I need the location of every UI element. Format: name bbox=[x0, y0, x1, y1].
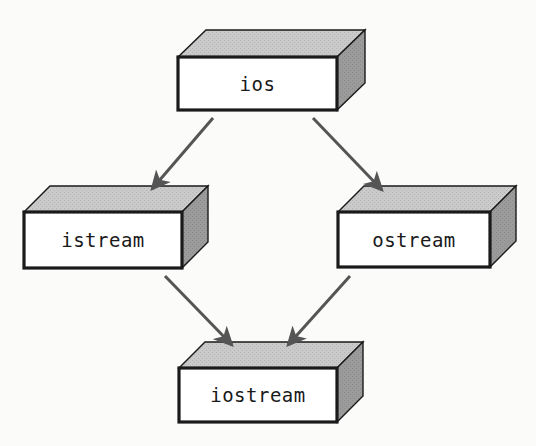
box-front-face-iostream[interactable] bbox=[179, 368, 337, 422]
box-top-face-ostream bbox=[338, 186, 516, 212]
edge-arrow-ios-to-ostream bbox=[313, 118, 382, 190]
edge-arrow-ios-to-istream bbox=[152, 118, 213, 189]
node-box-ios[interactable] bbox=[178, 30, 365, 110]
box-top-face-istream bbox=[24, 186, 208, 212]
box-front-face-istream[interactable] bbox=[24, 212, 182, 268]
node-box-ostream[interactable] bbox=[338, 186, 516, 267]
box-front-face-ios[interactable] bbox=[178, 57, 337, 110]
node-box-istream[interactable] bbox=[24, 186, 208, 268]
diagram-svg bbox=[0, 0, 536, 446]
edge-arrow-ostream-to-iostream bbox=[288, 276, 350, 345]
edge-arrow-istream-to-iostream bbox=[165, 276, 232, 345]
box-top-face-ios bbox=[178, 30, 365, 57]
boxes-layer bbox=[24, 30, 516, 422]
box-top-face-iostream bbox=[179, 342, 363, 368]
node-box-iostream[interactable] bbox=[179, 342, 363, 422]
diagram-canvas: iosistreamostreamiostream bbox=[0, 0, 536, 446]
box-front-face-ostream[interactable] bbox=[338, 212, 490, 267]
